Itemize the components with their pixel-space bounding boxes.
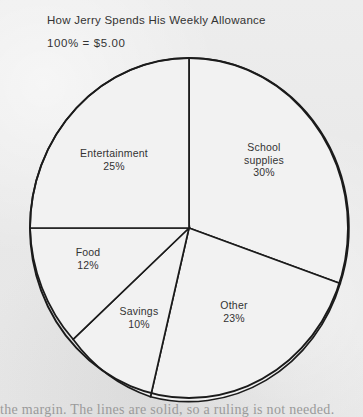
pie-label-entertainment-value: 25%	[103, 160, 125, 172]
pie-label-entertainment: Entertainment 25%	[66, 147, 162, 172]
page-caption: the margin. The lines are solid, so a ru…	[0, 404, 363, 417]
pie-label-entertainment-name: Entertainment	[80, 147, 148, 159]
pie-label-other: Other 23%	[208, 299, 260, 324]
pie-label-food: Food 12%	[62, 246, 114, 271]
pie-label-savings-value: 10%	[128, 318, 150, 330]
page-caption-text: the margin. The lines are solid, so a ru…	[0, 404, 363, 417]
pie-chart	[0, 0, 363, 417]
pie-label-school-supplies-value: 30%	[253, 166, 275, 178]
pie-label-food-name: Food	[76, 246, 101, 258]
pie-label-school-supplies-name-line1: School	[247, 141, 280, 153]
pie-slice-entertainment[interactable]	[30, 58, 189, 228]
pie-label-savings-name: Savings	[120, 305, 159, 317]
pie-label-other-value: 23%	[223, 312, 245, 324]
pie-label-food-value: 12%	[77, 259, 99, 271]
pie-label-school-supplies-name-line2: supplies	[244, 154, 284, 166]
pie-label-school-supplies: School supplies 30%	[228, 141, 300, 179]
pie-label-other-name: Other	[220, 299, 247, 311]
pie-label-savings: Savings 10%	[108, 305, 170, 330]
